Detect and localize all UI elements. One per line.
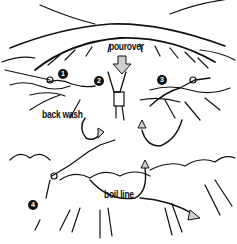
marker-3: 3 xyxy=(157,75,167,85)
marker-1: 1 xyxy=(58,69,68,79)
label-boil-line: boil line xyxy=(104,189,134,200)
marker-2: 2 xyxy=(94,76,104,86)
swimmer-4 xyxy=(52,140,115,176)
swimmer-1 xyxy=(48,80,95,86)
backwash-arrow-right xyxy=(142,120,182,146)
boil-line-arrow-down xyxy=(140,198,195,215)
swimmer-2 xyxy=(108,72,126,92)
label-pourover: pourover xyxy=(109,41,144,52)
hill-line-right xyxy=(170,0,237,14)
backwash-arrow-left xyxy=(82,118,100,139)
label-back-wash: back wash xyxy=(42,109,83,120)
hill-line-left xyxy=(40,5,95,24)
pourover-arrow xyxy=(113,56,131,74)
marker-4: 4 xyxy=(28,200,38,210)
pourover-hydraulic-diagram: pourover back wash boil line 1 2 3 4 xyxy=(0,0,237,244)
